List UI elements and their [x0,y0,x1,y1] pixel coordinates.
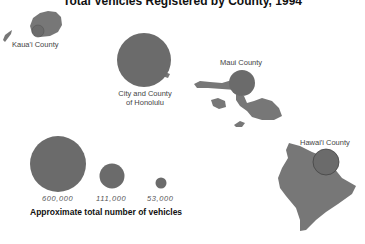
kauai-bubble [32,25,44,37]
legend-title: Approximate total number of vehicles [30,207,182,217]
legend-value-53000: 53,000 [147,194,174,203]
legend-bubble-600000 [30,136,86,192]
maui-bubble [229,70,255,96]
honolulu-label-line2: of Honolulu [110,99,180,108]
maui-island [236,94,282,120]
lanai-island [211,98,226,109]
hawaii-label: Hawai'i County [300,139,350,148]
honolulu-label: City and County of Honolulu [110,90,180,107]
legend-value-600000: 600,000 [42,194,73,203]
kahoolawe-island [234,121,245,127]
honolulu-bubble [117,33,171,87]
chart-stage: Total Vehicles Registered by County, 199… [0,0,365,244]
maui-label: Maui County [220,59,262,68]
hawaii-bubble [313,149,339,175]
legend-bubble-53000 [156,178,167,189]
legend-value-111000: 111,000 [96,194,126,203]
kauai-label: Kaua'i County [12,41,58,50]
niihau-island [3,30,12,42]
legend-bubble-111000 [100,164,125,189]
chart-title: Total Vehicles Registered by County, 199… [0,0,365,8]
